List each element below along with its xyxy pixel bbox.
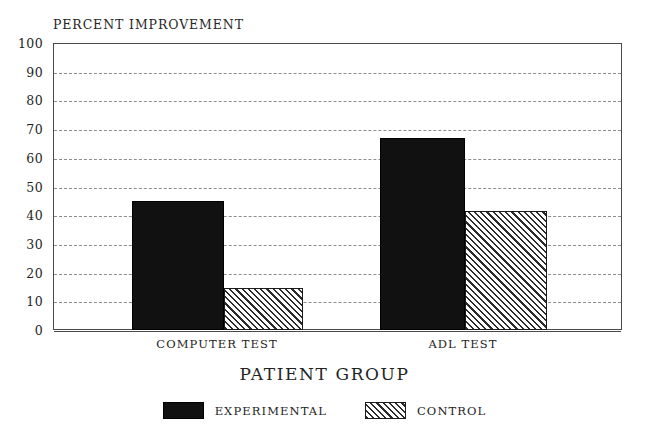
- legend-label: CONTROL: [417, 404, 486, 418]
- y-tick-label: 40: [26, 208, 43, 223]
- plot-area: [53, 43, 622, 330]
- gridline-40: [54, 216, 621, 217]
- gridlines: [54, 44, 621, 329]
- gridline-90: [54, 73, 621, 74]
- gridline-60: [54, 159, 621, 160]
- bar-chart: PERCENT IMPROVEMENT 10090807060504030201…: [0, 0, 649, 435]
- y-tick-label: 30: [26, 236, 43, 251]
- y-tick-label: 60: [26, 150, 43, 165]
- gridline-10: [54, 302, 621, 303]
- legend-swatch-control: [365, 402, 406, 419]
- y-axis-ticks: 1009080706050403020100: [0, 43, 48, 330]
- x-axis-title: PATIENT GROUP: [0, 364, 649, 384]
- legend-item-control: CONTROL: [365, 402, 486, 419]
- x-tick-label: ADL TEST: [428, 337, 497, 351]
- y-tick-label: 10: [26, 294, 43, 309]
- legend-label: EXPERIMENTAL: [215, 404, 327, 418]
- y-tick-label: 90: [26, 64, 43, 79]
- y-tick-label: 20: [26, 265, 43, 280]
- gridline-20: [54, 274, 621, 275]
- y-tick-label: 70: [26, 122, 43, 137]
- chart-legend: EXPERIMENTALCONTROL: [0, 402, 649, 419]
- gridline-50: [54, 188, 621, 189]
- legend-item-experimental: EXPERIMENTAL: [163, 402, 327, 419]
- gridline-30: [54, 245, 621, 246]
- gridline-0: [54, 331, 621, 332]
- legend-swatch-experimental: [163, 402, 204, 419]
- y-tick-label: 0: [35, 323, 43, 338]
- gridline-80: [54, 101, 621, 102]
- x-tick-label: COMPUTER TEST: [156, 337, 278, 351]
- gridline-70: [54, 130, 621, 131]
- y-axis-title: PERCENT IMPROVEMENT: [53, 17, 244, 32]
- y-tick-label: 100: [18, 36, 43, 51]
- y-tick-label: 80: [26, 93, 43, 108]
- y-tick-label: 50: [26, 179, 43, 194]
